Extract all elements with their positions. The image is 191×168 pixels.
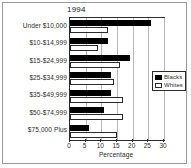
x-axis-tick-label: 15 xyxy=(112,142,119,149)
y-axis-label: $15-$24,999 xyxy=(3,57,67,64)
bar-group xyxy=(70,53,164,70)
bar-blacks xyxy=(70,20,151,26)
bar-blacks xyxy=(70,125,89,131)
bar-whites xyxy=(70,79,114,85)
y-axis-label: $25-$34,999 xyxy=(3,74,67,81)
bar-group xyxy=(70,88,164,105)
legend-item: Blacks xyxy=(155,73,183,81)
x-axis-tick-label: 25 xyxy=(144,142,151,149)
y-axis-label: Under $10,000 xyxy=(3,22,67,29)
legend-item: Whites xyxy=(155,81,183,89)
legend-label: Blacks xyxy=(164,74,182,80)
x-axis-ticks: 051015202530 xyxy=(69,140,163,149)
bar-blacks xyxy=(70,107,104,113)
bar-blacks xyxy=(70,55,130,61)
x-axis-tick-label: 5 xyxy=(83,142,87,149)
bar-whites xyxy=(70,27,108,33)
bar-group xyxy=(70,123,164,140)
x-axis-tick-label: 20 xyxy=(128,142,135,149)
x-axis-title: Percentage xyxy=(69,151,163,158)
bar-blacks xyxy=(70,90,111,96)
chart-title: 1994 xyxy=(67,5,86,14)
chart-container: 1994 Under $10,000$10-$14,999$15-$24,999… xyxy=(2,2,187,164)
x-axis-tick-label: 0 xyxy=(67,142,71,149)
legend-swatch-icon xyxy=(155,83,162,88)
bar-blacks xyxy=(70,72,111,78)
legend-label: Whites xyxy=(164,82,183,88)
y-axis-label: $35-$49,999 xyxy=(3,91,67,98)
bar-group xyxy=(70,105,164,122)
bar-group xyxy=(70,18,164,35)
bar-whites xyxy=(70,45,98,51)
bar-whites xyxy=(70,62,120,68)
y-axis-category-labels: Under $10,000$10-$14,999$15-$24,999$25-$… xyxy=(3,17,67,139)
bar-group xyxy=(70,35,164,52)
bar-whites xyxy=(70,114,123,120)
chart-legend: BlacksWhites xyxy=(152,71,186,91)
plot-area xyxy=(69,17,165,141)
y-axis-label: $75,000 Plus xyxy=(3,126,67,133)
bar-whites xyxy=(70,132,117,138)
y-axis-label: $50-$74,999 xyxy=(3,109,67,116)
bar-whites xyxy=(70,97,123,103)
x-axis-tick-label: 30 xyxy=(159,142,166,149)
x-axis-tick-label: 10 xyxy=(97,142,104,149)
bar-blacks xyxy=(70,38,108,44)
y-axis-label: $10-$14,999 xyxy=(3,39,67,46)
legend-swatch-icon xyxy=(155,75,162,80)
bar-group xyxy=(70,70,164,87)
